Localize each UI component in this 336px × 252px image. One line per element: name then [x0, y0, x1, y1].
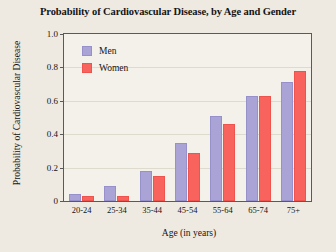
bar-women-20-24 [82, 196, 94, 201]
legend-swatch-women-icon [82, 63, 92, 73]
x-tick-label: 20-24 [72, 205, 92, 215]
bar-women-65-74 [259, 96, 271, 201]
y-axis-label: Probability of Cardiovascular Disease [12, 33, 22, 193]
chart-title: Probability of Cardiovascular Disease, b… [0, 6, 336, 17]
y-tick-mark [60, 201, 64, 202]
bar-group: 75+ [276, 34, 311, 201]
chart-legend: Men Women [82, 46, 128, 73]
legend-item-women: Women [82, 63, 128, 73]
y-tick-label: 0.2 [47, 163, 58, 173]
bar-men-25-34 [104, 186, 116, 201]
bar-women-55-64 [223, 124, 235, 201]
bar-men-20-24 [69, 194, 81, 201]
bar-men-45-54 [175, 143, 187, 201]
chart-figure: Probability of Cardiovascular Disease, b… [0, 0, 336, 252]
bar-group: 45-54 [170, 34, 205, 201]
plot-area: 1.00.80.60.40.20 20-2425-3435-4445-5455-… [63, 33, 312, 202]
bar-group: 65-74 [240, 34, 275, 201]
x-tick-label: 65-74 [248, 205, 268, 215]
legend-item-men: Men [82, 46, 128, 56]
legend-swatch-men-icon [82, 46, 92, 56]
legend-label-men: Men [99, 46, 116, 56]
x-tick-label: 35-44 [142, 205, 162, 215]
bar-women-75+ [294, 71, 306, 201]
x-tick-label: 55-64 [213, 205, 233, 215]
bar-women-45-54 [188, 153, 200, 201]
y-tick-label: 0.8 [47, 62, 58, 72]
y-tick-label: 1.0 [47, 29, 58, 39]
bar-men-35-44 [140, 171, 152, 201]
x-tick-label: 25-34 [107, 205, 127, 215]
x-tick-label: 45-54 [178, 205, 198, 215]
legend-label-women: Women [99, 63, 128, 73]
y-tick-label: 0.6 [47, 96, 58, 106]
bar-women-35-44 [153, 176, 165, 201]
y-tick-label: 0 [54, 196, 59, 206]
bar-men-65-74 [246, 96, 258, 201]
y-tick-label: 0.4 [47, 129, 58, 139]
x-tick-label: 75+ [287, 205, 300, 215]
bar-men-55-64 [210, 116, 222, 201]
bar-women-25-34 [117, 196, 129, 201]
bar-men-75+ [281, 82, 293, 201]
bar-group: 35-44 [135, 34, 170, 201]
x-axis-label: Age (in years) [60, 228, 318, 238]
bar-group: 55-64 [205, 34, 240, 201]
